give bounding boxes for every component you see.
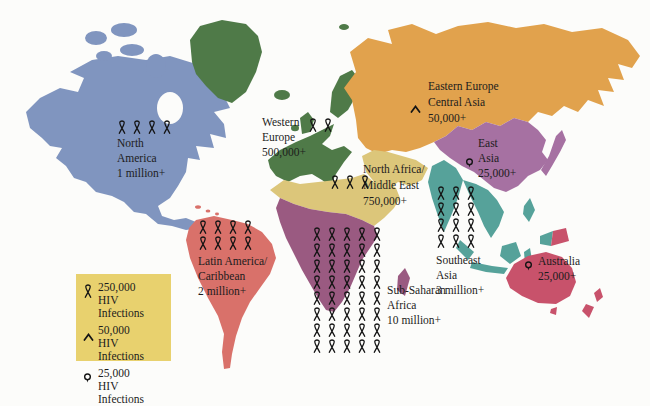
ribbon-icon: [323, 118, 333, 132]
ribbon-icon: [312, 259, 322, 273]
map-caribbean-island: [195, 205, 201, 209]
caret-icon: [410, 105, 421, 113]
ribbon-icon: [312, 243, 322, 257]
label-sub-saharan-africa: Sub-Saharan Africa 10 million+: [312, 226, 446, 353]
ribbon-icon: [360, 175, 370, 189]
ribbon-icon: [372, 259, 382, 273]
ribbon-icon: [436, 234, 446, 248]
ribbon-icon: [132, 120, 142, 134]
ribbon-icon: [342, 323, 352, 337]
ribbon-icon: [357, 307, 367, 321]
map-new-guinea-east: [551, 228, 569, 246]
ribbon-icon: [327, 307, 337, 321]
pin-icon: [465, 158, 474, 169]
ribbon-icon: [372, 275, 382, 289]
map-philippines: [523, 198, 535, 222]
region-name-line: North: [117, 136, 175, 151]
ribbon-icon: [198, 220, 208, 234]
ribbon-icon: [213, 236, 223, 250]
label-australia: Australia 25,000+: [524, 254, 580, 284]
ribbon-icon: [312, 227, 322, 241]
ribbon-icon: [312, 323, 322, 337]
ribbon-icon: [342, 259, 352, 273]
latin-america-ribbon-icons: [198, 219, 267, 250]
ribbon-icon: [243, 236, 253, 250]
australia-pin-icon: [524, 257, 537, 272]
region-value: 25,000+: [478, 166, 516, 181]
map-iceland: [274, 90, 290, 100]
ribbon-icon: [357, 227, 367, 241]
ribbon-icon: [357, 291, 367, 305]
region-name-line: America: [117, 151, 175, 166]
ribbon-icon: [466, 186, 476, 200]
legend-item-50000: 50,000 HIV Infections: [83, 324, 166, 363]
east-asia-pin-icon: [465, 154, 478, 169]
map-tasmania: [550, 307, 557, 315]
ribbon-icon: [83, 281, 98, 320]
ribbon-icon: [436, 186, 446, 200]
label-north-africa-middle-east: North Africa/ Middle East 750,000+: [330, 161, 425, 209]
ribbon-icon: [312, 275, 322, 289]
region-name-line: Australia: [538, 254, 580, 269]
ribbon-icon: [372, 243, 382, 257]
region-value: 1 million+: [117, 166, 175, 181]
region-name-line: Southeast: [436, 253, 484, 268]
region-value: 3 million+: [436, 283, 484, 298]
southeast-asia-ribbon-icons: [436, 185, 484, 248]
ribbon-icon: [243, 220, 253, 234]
ribbon-icon: [228, 236, 238, 250]
legend: 250,000 HIV Infections 50,000 HIV Infect…: [76, 274, 171, 361]
ribbon-icon: [357, 275, 367, 289]
region-name-line: Asia: [478, 151, 516, 166]
ribbon-icon: [327, 275, 337, 289]
region-value: 25,000+: [538, 269, 580, 284]
region-value: 750,000+: [363, 193, 425, 209]
map-caribbean-island: [215, 213, 219, 216]
map-new-zealand-north: [594, 288, 603, 302]
region-name-line: East: [478, 136, 516, 151]
ribbon-icon: [83, 284, 93, 298]
legend-count: 50,000: [98, 324, 166, 337]
region-value: 500,000+: [262, 145, 342, 160]
map-arctic-island: [111, 23, 137, 37]
ribbon-icon: [228, 220, 238, 234]
ribbon-icon: [372, 291, 382, 305]
ribbon-icon: [327, 259, 337, 273]
western-europe-ribbon-icons: [308, 117, 336, 132]
ribbon-icon: [357, 243, 367, 257]
ribbon-icon: [372, 307, 382, 321]
ribbon-icon: [327, 243, 337, 257]
label-latin-america-caribbean: Latin America/ Caribbean 2 million+: [198, 219, 267, 299]
ribbon-icon: [451, 186, 461, 200]
legend-count: 25,000: [98, 367, 166, 380]
region-name-line: Asia: [436, 268, 484, 283]
ribbon-icon: [308, 118, 318, 132]
ribbon-icon: [327, 339, 337, 353]
ribbon-icon: [312, 339, 322, 353]
ribbon-icon: [330, 175, 340, 189]
region-value: 50,000+: [428, 110, 499, 126]
region-name-line: Eastern Europe: [428, 78, 499, 94]
region-name-line: Africa: [387, 298, 446, 313]
ribbon-icon: [342, 339, 352, 353]
legend-item-25000: 25,000 HIV Infections: [83, 367, 166, 406]
ribbon-icon: [451, 218, 461, 232]
pin-icon: [524, 261, 533, 272]
caret-icon: [83, 333, 94, 341]
north-america-ribbon-icons: [117, 119, 175, 134]
legend-label: HIV Infections: [98, 294, 166, 320]
pin-icon: [83, 367, 98, 406]
map-new-zealand-south: [582, 304, 594, 318]
ribbon-icon: [327, 323, 337, 337]
legend-label: HIV Infections: [98, 380, 166, 406]
ribbon-icon: [342, 227, 352, 241]
ribbon-icon: [466, 218, 476, 232]
region-name-line: Caribbean: [198, 269, 267, 284]
sub-saharan-ribbon-icons: [312, 226, 385, 353]
map-caribbean-island: [206, 209, 211, 212]
ribbon-icon: [213, 220, 223, 234]
ribbon-icon: [345, 175, 355, 189]
map-arctic-island: [96, 51, 112, 61]
region-name-line: Latin America/: [198, 254, 267, 269]
map-arctic-island: [120, 44, 144, 56]
